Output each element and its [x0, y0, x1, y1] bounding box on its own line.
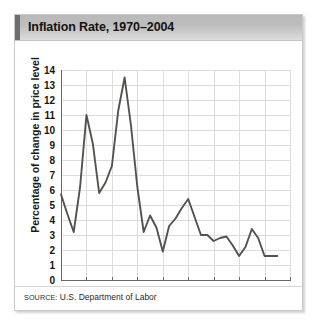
source-label: SOURCE: — [24, 293, 57, 302]
svg-text:14: 14 — [44, 65, 56, 76]
figure-container: Inflation Rate, 1970–2004 Percentage of … — [14, 14, 303, 311]
svg-text:6: 6 — [49, 185, 55, 196]
page-title: Inflation Rate, 1970–2004 — [28, 20, 174, 34]
svg-text:13: 13 — [44, 80, 56, 91]
svg-text:2: 2 — [49, 245, 55, 256]
figure-title-bar: Inflation Rate, 1970–2004 — [15, 15, 302, 41]
svg-text:7: 7 — [49, 170, 55, 181]
svg-text:12: 12 — [44, 95, 56, 106]
svg-text:8: 8 — [49, 155, 55, 166]
svg-text:5: 5 — [49, 200, 55, 211]
svg-text:1: 1 — [49, 260, 55, 271]
source-value: U.S. Department of Labor — [57, 292, 156, 302]
svg-text:4: 4 — [49, 215, 55, 226]
svg-text:3: 3 — [49, 230, 55, 241]
svg-text:9: 9 — [49, 140, 55, 151]
line-chart: 0123456789101112131419701974197819821986… — [15, 41, 304, 286]
source-note: SOURCE: U.S. Department of Labor — [24, 292, 157, 302]
svg-text:10: 10 — [44, 125, 56, 136]
svg-text:11: 11 — [44, 110, 55, 121]
plot-area: Percentage of change in price level 0123… — [15, 41, 302, 286]
source-divider — [15, 286, 302, 287]
